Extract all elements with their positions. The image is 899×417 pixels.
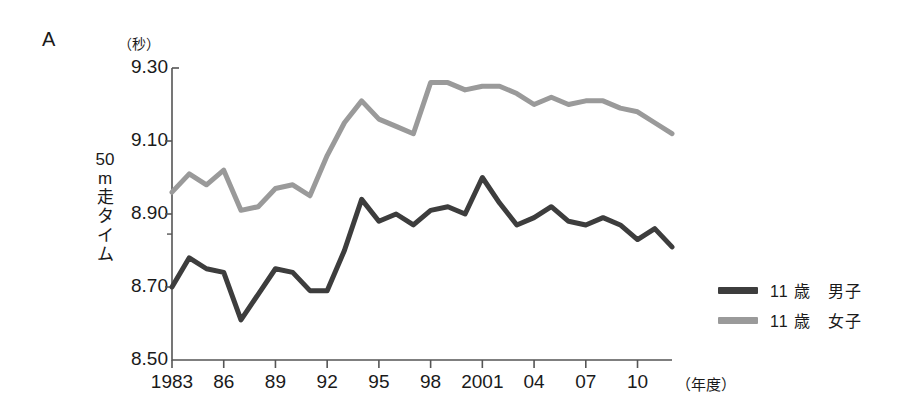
legend-item-boys: 11 歳 男子	[718, 275, 862, 305]
legend-item-girls: 11 歳 女子	[718, 305, 862, 335]
figure-panel-a: A （秒） 50 m 走 タ イ ム 9.309.108.908.708.50 …	[0, 0, 899, 417]
legend-swatch-boys	[718, 287, 758, 294]
legend-label-girls: 11 歳 女子	[770, 308, 862, 332]
legend-swatch-girls	[718, 317, 758, 324]
chart-legend: 11 歳 男子 11 歳 女子	[718, 275, 862, 335]
series-line-girls	[172, 83, 672, 211]
series-line-boys	[172, 178, 672, 320]
line-chart-plot	[0, 0, 899, 417]
legend-label-boys: 11 歳 男子	[770, 278, 862, 302]
